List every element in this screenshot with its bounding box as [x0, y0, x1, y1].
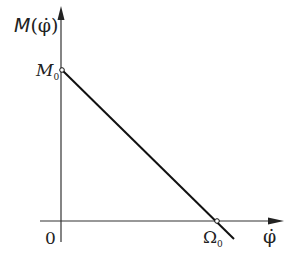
x-axis-arrow-icon: [268, 218, 284, 225]
y-axis-label-main: M: [14, 14, 30, 36]
origin-label: 0: [45, 228, 56, 248]
y-axis-label: M(φ̇): [14, 14, 59, 36]
x-intercept-sub: 0: [217, 239, 223, 249]
y-intercept-label: M0: [36, 60, 59, 82]
y-intercept-main: M: [36, 60, 53, 80]
x-intercept-main: Ω: [203, 227, 217, 247]
y-axis-arrow-icon: [58, 6, 65, 20]
x-axis-label: φ̇: [263, 225, 276, 247]
series-line: [62, 70, 234, 239]
y-intercept-sub: 0: [53, 72, 59, 82]
chart-canvas: [0, 0, 299, 260]
y-axis-label-arg: (φ̇): [30, 14, 58, 36]
x-intercept-label: Ω0: [203, 227, 223, 249]
omega0-marker: [215, 219, 220, 224]
m0-marker: [60, 68, 65, 73]
